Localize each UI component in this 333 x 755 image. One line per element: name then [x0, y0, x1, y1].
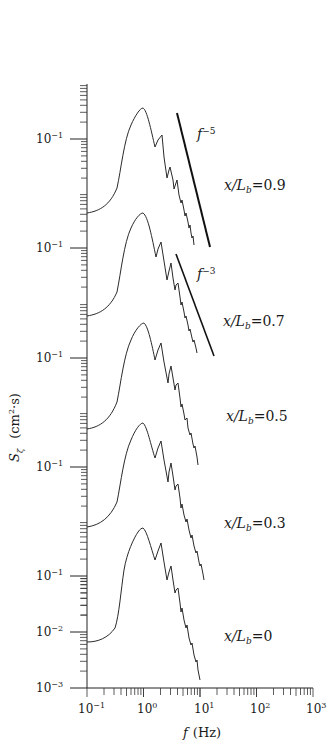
x-tick-label: 103 — [306, 701, 326, 716]
series-label-0.9: x/Lb=0.9 — [224, 177, 286, 195]
curve-xlb-0.3 — [87, 423, 204, 580]
y-tick-label: 10−1 — [36, 459, 63, 474]
series-label-0.5: x/Lb=0.5 — [226, 408, 288, 426]
curve-xlb-0.9 — [87, 108, 194, 245]
curve-xlb-0 — [87, 528, 200, 680]
ref-label-f-minus-5: f−5 — [196, 126, 216, 142]
x-minor-ticks — [87, 688, 313, 697]
y-axis-title: Sζ(cm2·s) — [7, 393, 25, 462]
series-label-0.3: x/Lb=0.3 — [224, 515, 286, 533]
x-tick-labels: 10−1 100 101 102 103 — [78, 701, 326, 716]
series-label-0: x/Lb=0 — [224, 628, 272, 646]
x-tick-label: 100 — [137, 701, 157, 716]
curve-xlb-0.5 — [87, 323, 198, 465]
curve-xlb-0.7 — [87, 213, 197, 353]
x-tick-label: 101 — [194, 701, 214, 716]
y-tick-label: 10−1 — [36, 131, 63, 146]
y-tick-label: 10−2 — [36, 624, 63, 639]
x-tick-label: 10−1 — [78, 701, 105, 716]
y-tick-label: 10−1 — [36, 240, 63, 255]
x-axis-title: f(Hz) — [182, 725, 221, 740]
y-tick-label: 10−1 — [36, 568, 63, 583]
y-tick-labels: 10−1 10−1 10−1 10−1 10−1 10−2 10−3 — [36, 131, 63, 695]
x-tick-label: 102 — [250, 701, 270, 716]
y-tick-label: 10−1 — [36, 350, 63, 365]
spectrum-chart: 10−1 10−1 10−1 10−1 10−1 10−2 10−3 10−1 … — [0, 0, 333, 755]
y-minor-ticks — [80, 86, 87, 672]
y-tick-label: 10−3 — [36, 680, 63, 695]
series-label-0.7: x/Lb=0.7 — [223, 313, 285, 331]
ref-label-f-minus-3: f−3 — [196, 266, 216, 282]
